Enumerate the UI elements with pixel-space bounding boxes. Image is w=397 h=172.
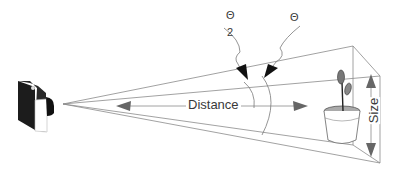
angle-leaders <box>224 26 300 72</box>
fov-diagram <box>0 0 397 172</box>
half-angle-denominator: 2 <box>227 27 233 38</box>
full-angle-arrowhead <box>264 64 278 78</box>
distance-label: Distance <box>186 98 241 111</box>
size-label: Size <box>367 97 380 124</box>
angle-arcs <box>244 76 271 135</box>
potted-plant-icon <box>324 70 360 144</box>
half-angle-arrowhead <box>236 64 248 80</box>
camera-icon <box>18 81 54 132</box>
full-angle-label: Θ <box>290 12 299 23</box>
half-angle-numerator: Θ <box>226 10 235 21</box>
